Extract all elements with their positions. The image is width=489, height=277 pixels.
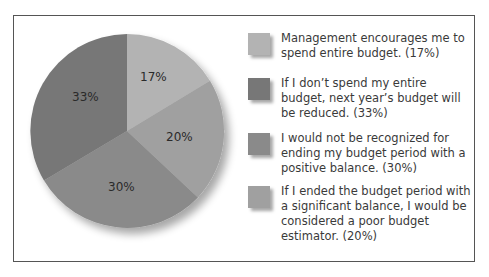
- label-17: 17%: [140, 70, 167, 84]
- legend-swatch: [248, 133, 270, 155]
- legend-label: If I ended the budget period with a sign…: [281, 184, 473, 244]
- legend-label: I would not be recognized for ending my …: [281, 131, 473, 176]
- legend-swatch: [248, 78, 270, 100]
- label-33: 33%: [72, 90, 99, 104]
- label-30: 30%: [108, 180, 135, 194]
- legend-swatch: [248, 186, 270, 208]
- legend-swatch: [248, 33, 270, 55]
- label-20: 20%: [166, 130, 193, 144]
- legend-label: If I don’t spend my entire budget, next …: [281, 76, 473, 121]
- legend-label: Management encourages me to spend entire…: [281, 31, 473, 61]
